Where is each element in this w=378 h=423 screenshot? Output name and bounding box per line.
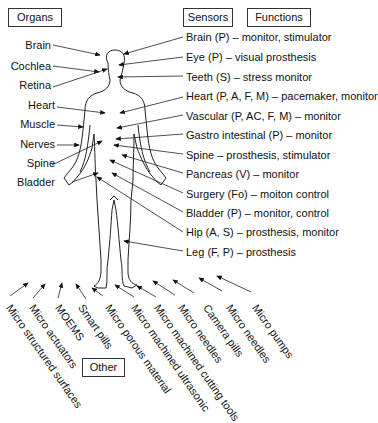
human-body-outline — [64, 50, 166, 288]
function-label: Pancreas (V) – monitor — [186, 168, 299, 181]
function-label: Vascular (P, AC, F, M) – monitor — [186, 110, 341, 123]
function-label: Leg (F, P) – prosthesis — [186, 246, 296, 259]
function-label: Eye (P) – visual prosthesis — [186, 51, 316, 64]
organ-label-brain: Brain — [25, 39, 51, 52]
function-arrows — [97, 37, 183, 251]
organ-label-muscle: Muscle — [20, 118, 55, 131]
function-label: Spine – prosthesis, stimulator — [186, 149, 330, 162]
other-header-box: Other — [82, 358, 125, 377]
organ-label-cochlea: Cochlea — [11, 60, 51, 73]
function-label: Surgery (Fo) – moiton control — [186, 188, 329, 201]
function-label: Gastro intestinal (P) – monitor — [186, 129, 332, 142]
organ-label-retina: Retina — [19, 79, 51, 92]
organ-label-nerves: Nerves — [20, 138, 55, 151]
organ-arrows — [52, 45, 107, 182]
organ-label-bladder: Bladder — [17, 176, 55, 189]
function-label: Heart (P, A, F, M) – pacemaker, monitor — [186, 90, 378, 103]
function-label: Hip (A, S) – prosthesis, monitor — [186, 226, 339, 239]
function-label: Teeth (S) – stress monitor — [186, 71, 312, 84]
sensors-header-box: Sensors — [183, 8, 233, 27]
organ-label-heart: Heart — [28, 99, 55, 112]
function-label: Bladder (P) – monitor, control — [186, 207, 329, 220]
organ-label-spine: Spine — [27, 157, 55, 170]
organs-header-box: Organs — [8, 8, 62, 27]
function-label: Brain (P) – monitor, stimulator — [186, 31, 332, 44]
functions-header-box: Functions — [247, 8, 311, 27]
